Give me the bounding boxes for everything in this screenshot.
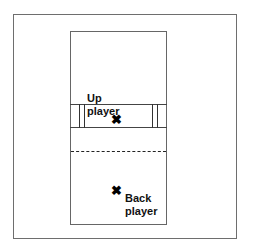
right-outer-sideline	[157, 104, 158, 128]
back-player-x-icon: ✖	[111, 184, 122, 197]
up-player-label-line1: Up	[87, 92, 102, 104]
left-outer-sideline	[79, 104, 80, 128]
up-player-x-icon: ✖	[111, 113, 122, 126]
midcourt-dashed-line	[71, 151, 166, 152]
left-inner-sideline	[84, 104, 85, 128]
back-player-label-line2: player	[125, 205, 157, 217]
back-player-label-line1: Back	[125, 192, 151, 204]
right-inner-sideline	[152, 104, 153, 128]
